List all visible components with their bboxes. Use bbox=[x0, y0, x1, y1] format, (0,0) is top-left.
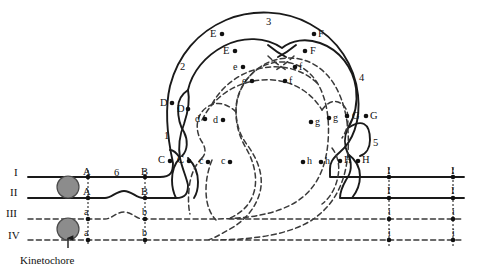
dot-e-1 bbox=[241, 65, 246, 70]
label-G-2: G bbox=[370, 111, 378, 122]
label-C-1: C bbox=[158, 155, 165, 166]
dot-D-1 bbox=[170, 101, 175, 106]
label-b-1: b bbox=[142, 207, 147, 217]
dot-G-1 bbox=[345, 114, 350, 119]
label-F-1: F bbox=[318, 29, 324, 40]
label-H-1: H bbox=[344, 155, 352, 166]
region-1: 1 bbox=[164, 131, 169, 142]
label-A-1: A bbox=[83, 167, 91, 178]
dot-h-1 bbox=[301, 160, 306, 165]
dot-d-2 bbox=[221, 118, 226, 123]
label-D-2: D bbox=[177, 104, 185, 115]
label-I-2: I bbox=[387, 186, 391, 197]
dot-D-2 bbox=[186, 107, 191, 112]
label-i-1: i bbox=[388, 207, 391, 217]
dot-E-2 bbox=[233, 49, 238, 54]
strand-I-path bbox=[28, 13, 464, 177]
label-E-2: E bbox=[223, 46, 229, 57]
dot-f-2 bbox=[283, 79, 288, 84]
dot-G-2 bbox=[364, 114, 369, 119]
label-c-2: c bbox=[221, 156, 225, 166]
label-B-2: B bbox=[141, 187, 148, 198]
region-2: 2 bbox=[180, 62, 185, 73]
label-c-1: c bbox=[199, 156, 203, 166]
label-h-2: h bbox=[325, 156, 330, 166]
region-5: 5 bbox=[373, 138, 378, 149]
dot-d-1 bbox=[203, 117, 208, 122]
dot-F-2 bbox=[303, 49, 308, 54]
label-e-2: e bbox=[242, 76, 246, 86]
dot-g-1 bbox=[309, 120, 314, 125]
label-C-2: C bbox=[177, 155, 184, 166]
label-f-2: f bbox=[289, 76, 292, 86]
solid-chromatid-strands bbox=[28, 13, 464, 198]
label-H-2: H bbox=[362, 155, 370, 166]
dashed-arc-e-f-upper bbox=[212, 67, 318, 104]
dashed-fold-c2 bbox=[206, 160, 216, 220]
dot-c-1 bbox=[206, 160, 211, 165]
dot-c-2 bbox=[228, 160, 233, 165]
label-b-2: b bbox=[142, 228, 147, 238]
label-a-1: a bbox=[84, 207, 88, 217]
strand-III: III bbox=[6, 208, 17, 219]
dot-F-1 bbox=[312, 32, 317, 37]
label-F-2: F bbox=[310, 46, 316, 57]
region-3: 3 bbox=[266, 17, 271, 28]
dot-h-2 bbox=[319, 160, 324, 165]
dot-E-1 bbox=[220, 32, 225, 37]
label-I-4: I bbox=[451, 186, 455, 197]
strand-II-path bbox=[28, 39, 464, 198]
kinetochore-group bbox=[57, 176, 79, 248]
label-i-4: i bbox=[452, 228, 455, 238]
label-h-1: h bbox=[307, 156, 312, 166]
region-4: 4 bbox=[359, 73, 364, 84]
label-g-1: g bbox=[315, 117, 320, 127]
strand-IV: IV bbox=[8, 230, 20, 241]
label-A-2: A bbox=[83, 187, 91, 198]
dot-e-2 bbox=[250, 79, 255, 84]
label-e-1: e bbox=[233, 62, 237, 72]
label-G-1: G bbox=[352, 111, 360, 122]
figure-canvas: IIIIIIIV 123456 AAaaBBbbCCccDDddEEeeFFff… bbox=[0, 0, 492, 275]
label-I-3: I bbox=[451, 166, 455, 177]
chromosome-diagram bbox=[0, 0, 492, 275]
dashed-fold-d bbox=[197, 103, 236, 158]
dot-g-2 bbox=[327, 116, 332, 121]
label-D-1: D bbox=[160, 98, 168, 109]
label-B-1: B bbox=[141, 167, 148, 178]
label-i-2: i bbox=[388, 228, 391, 238]
dashed-fold-c bbox=[189, 158, 203, 214]
kinetochore-caption: Kinetochore bbox=[20, 255, 74, 266]
label-E-1: E bbox=[210, 29, 216, 40]
label-a-2: a bbox=[84, 228, 88, 238]
dashed-arc-e-f-lower bbox=[202, 80, 322, 120]
kinetochore-lower bbox=[57, 218, 79, 240]
label-i-3: i bbox=[452, 207, 455, 217]
dot-H-2 bbox=[356, 159, 361, 164]
dot-C-2 bbox=[187, 159, 192, 164]
label-g-2: g bbox=[333, 113, 338, 123]
label-d-2: d bbox=[213, 115, 218, 125]
dot-f-1 bbox=[293, 65, 298, 70]
kinetochore-upper bbox=[57, 176, 79, 198]
dot-C-1 bbox=[168, 159, 173, 164]
strand-I: I bbox=[14, 167, 18, 178]
label-d-1: d bbox=[195, 114, 200, 124]
label-f-1: f bbox=[299, 62, 302, 72]
strand-II: II bbox=[10, 187, 17, 198]
dot-H-1 bbox=[338, 159, 343, 164]
label-I-1: I bbox=[387, 166, 391, 177]
region-6: 6 bbox=[114, 168, 119, 179]
